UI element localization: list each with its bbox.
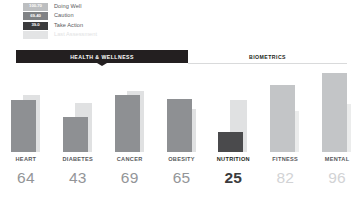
bar-current-fitness[interactable] [270,85,295,152]
legend-label-take-action: Take Action [54,23,83,29]
chart-column-cancer: CANCER 69 [104,70,156,197]
bar-group-obesity [156,70,208,152]
category-label-diabetes: DIABETES [62,157,93,163]
score-value-obesity: 65 [173,170,191,186]
legend-swatch-doing-well: 100-70 [23,3,48,11]
bar-group-fitness [259,70,311,152]
score-value-cancer: 69 [121,170,139,186]
bar-group-mental [311,70,363,152]
chart-column-heart: HEART 64 [0,70,52,197]
category-label-nutrition: NUTRITION [217,157,250,163]
tab-biometrics[interactable]: BIOMETRICS [188,50,347,64]
category-label-heart: HEART [16,157,37,163]
score-legend: 100-70 Doing Well 69-40 Caution 39-0 Tak… [23,2,153,40]
bar-group-nutrition [207,70,259,152]
legend-item-doing-well: 100-70 Doing Well [23,2,153,11]
bar-group-cancer [104,70,156,152]
chart-column-mental: MENTAL 96 [311,70,363,197]
bar-current-obesity[interactable] [167,99,192,152]
legend-item-last-assessment: Last Assessment [23,31,153,40]
legend-swatch-take-action: 39-0 [23,22,48,30]
category-label-fitness: FITNESS [272,157,298,163]
legend-label-last-assessment: Last Assessment [54,32,97,38]
assessment-bar-chart: HEART 64 DIABETES 43 CANCER 69 OBES [0,70,363,197]
chart-column-obesity: OBESITY 65 [156,70,208,197]
bar-current-diabetes[interactable] [63,117,88,152]
score-value-heart: 64 [17,170,35,186]
score-value-fitness: 82 [276,170,294,186]
score-value-diabetes: 43 [69,170,87,186]
score-value-nutrition: 25 [225,170,243,186]
legend-label-doing-well: Doing Well [54,4,81,10]
category-tabbar: HEALTH & WELLNESS BIOMETRICS [16,50,347,63]
score-value-mental: 96 [328,170,346,186]
category-label-mental: MENTAL [325,157,350,163]
bar-current-heart[interactable] [11,100,36,152]
category-label-obesity: OBESITY [168,157,195,163]
bar-current-nutrition[interactable] [218,132,243,153]
bar-current-mental[interactable] [322,73,347,152]
bar-group-diabetes [52,70,104,152]
category-label-cancer: CANCER [117,157,143,163]
chart-column-diabetes: DIABETES 43 [52,70,104,197]
legend-swatch-last-assessment [23,31,48,39]
tab-health-wellness[interactable]: HEALTH & WELLNESS [16,50,188,63]
bar-current-cancer[interactable] [115,95,140,152]
bar-group-heart [0,70,52,152]
chart-column-fitness: FITNESS 82 [259,70,311,197]
chart-columns: HEART 64 DIABETES 43 CANCER 69 OBES [0,70,363,197]
legend-swatch-caution: 69-40 [23,12,48,20]
legend-item-take-action: 39-0 Take Action [23,21,153,30]
legend-label-caution: Caution [54,13,74,19]
legend-item-caution: 69-40 Caution [23,12,153,21]
chart-column-nutrition: NUTRITION 25 [207,70,259,197]
